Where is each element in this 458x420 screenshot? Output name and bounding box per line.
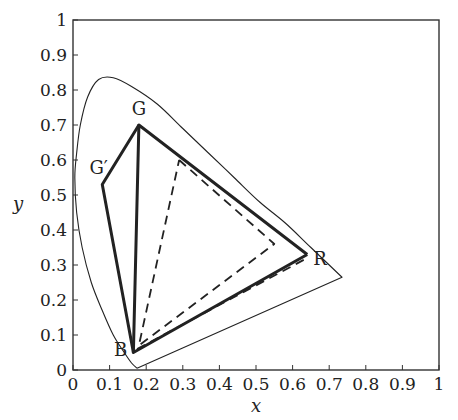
gamut-r-g-b-line [133,125,307,353]
x-tick-label: 0.7 [316,374,343,394]
chromaticity-chart: 00.10.20.30.40.50.60.70.80.9100.10.20.30… [0,0,458,420]
y-tick-label: 0 [56,360,67,380]
x-tick-label: 0 [68,374,79,394]
y-tick-label: 0.6 [40,150,67,170]
x-tick-label: 1 [434,374,445,394]
vertex-label-G: G [132,98,146,119]
gamut-dashed-line [139,160,274,346]
x-tick-label: 0.3 [169,374,196,394]
y-tick-label: 0.2 [40,290,67,310]
y-axis-label: y [12,193,24,214]
vertex-label-G-prime: G′ [89,157,107,178]
x-tick-label: 0.6 [279,374,306,394]
y-tick-label: 0.9 [40,45,67,65]
y-tick-label: 1 [56,10,67,30]
y-tick-label: 0.3 [40,255,67,275]
series-group [75,77,342,368]
spectral-locus-line [75,77,342,368]
x-axis-label: x [251,395,261,416]
ticks: 00.10.20.30.40.50.60.70.80.9100.10.20.30… [40,10,444,394]
x-tick-label: 0.1 [96,374,123,394]
vertex-label-R: R [313,248,327,269]
x-tick-label: 0.8 [352,374,379,394]
x-tick-label: 0.9 [389,374,416,394]
vertex-label-B: B [114,339,127,360]
y-tick-label: 0.5 [40,185,67,205]
x-tick-label: 0.2 [133,374,160,394]
y-tick-label: 0.4 [40,220,67,240]
y-tick-label: 0.7 [40,115,67,135]
x-tick-label: 0.5 [242,374,269,394]
y-tick-label: 0.8 [40,80,67,100]
x-tick-label: 0.4 [206,374,233,394]
y-tick-label: 0.1 [40,325,67,345]
